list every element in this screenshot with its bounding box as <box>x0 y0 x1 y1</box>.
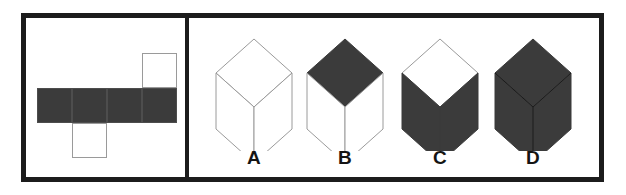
net-cell-row-4 <box>142 88 177 123</box>
cube-b <box>299 33 391 151</box>
cube-net-diagram <box>0 0 185 195</box>
cube-d <box>487 33 579 151</box>
net-cell-row-1 <box>37 88 72 123</box>
option-label-a: A <box>208 147 300 169</box>
option-b[interactable]: B <box>299 33 391 173</box>
option-d[interactable]: D <box>487 33 579 173</box>
option-a[interactable]: A <box>208 33 300 173</box>
option-label-c: C <box>394 147 486 169</box>
net-cell-row-2 <box>72 88 107 123</box>
cube-c <box>394 33 486 151</box>
net-cell-bottom-flap <box>72 123 107 158</box>
option-label-d: D <box>487 147 579 169</box>
answer-options-row: ABCD <box>189 13 604 182</box>
option-c[interactable]: C <box>394 33 486 173</box>
cube-a <box>208 33 300 151</box>
net-cell-row-3 <box>107 88 142 123</box>
net-cell-top-flap <box>142 53 177 88</box>
option-label-b: B <box>299 147 391 169</box>
cube-folding-puzzle: ABCD <box>0 0 626 195</box>
